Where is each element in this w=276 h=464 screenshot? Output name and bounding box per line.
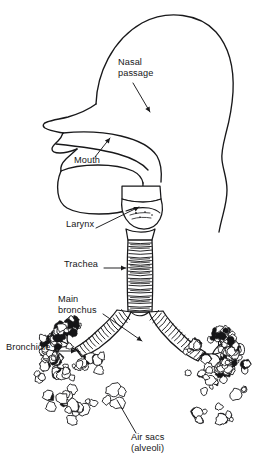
bronchus-left (75, 310, 131, 357)
respiratory-system-diagram: Nasalpassage Mouth Larynx Trachea Mainbr… (0, 0, 276, 464)
label-trachea: Trachea (64, 259, 98, 270)
label-bronchiole: Bronchiole (6, 342, 50, 353)
bronchus-right (149, 310, 205, 361)
label-air-sacs-line1: Air sacs (131, 432, 164, 442)
label-main-bronchus: Mainbronchus (58, 294, 97, 315)
label-air-sacs: Air sacs(alveoli) (131, 432, 164, 453)
label-main-bronchus-line1: Main (58, 294, 78, 304)
label-nasal-passage-line2: passage (118, 68, 153, 78)
label-trachea-line1: Trachea (64, 259, 98, 269)
label-nasal-passage: Nasalpassage (118, 57, 153, 78)
lung-right-alveolar-cluster (183, 325, 251, 425)
label-nasal-passage-line1: Nasal (118, 57, 142, 67)
label-air-sacs-line2: (alveoli) (131, 443, 164, 453)
label-mouth-line1: Mouth (74, 155, 100, 165)
label-larynx: Larynx (66, 219, 94, 230)
label-main-bronchus-line2: bronchus (58, 305, 97, 315)
label-bronchiole-line1: Bronchiole (6, 342, 50, 352)
trachea (127, 240, 153, 312)
label-larynx-line1: Larynx (66, 219, 94, 229)
label-mouth: Mouth (74, 155, 100, 166)
